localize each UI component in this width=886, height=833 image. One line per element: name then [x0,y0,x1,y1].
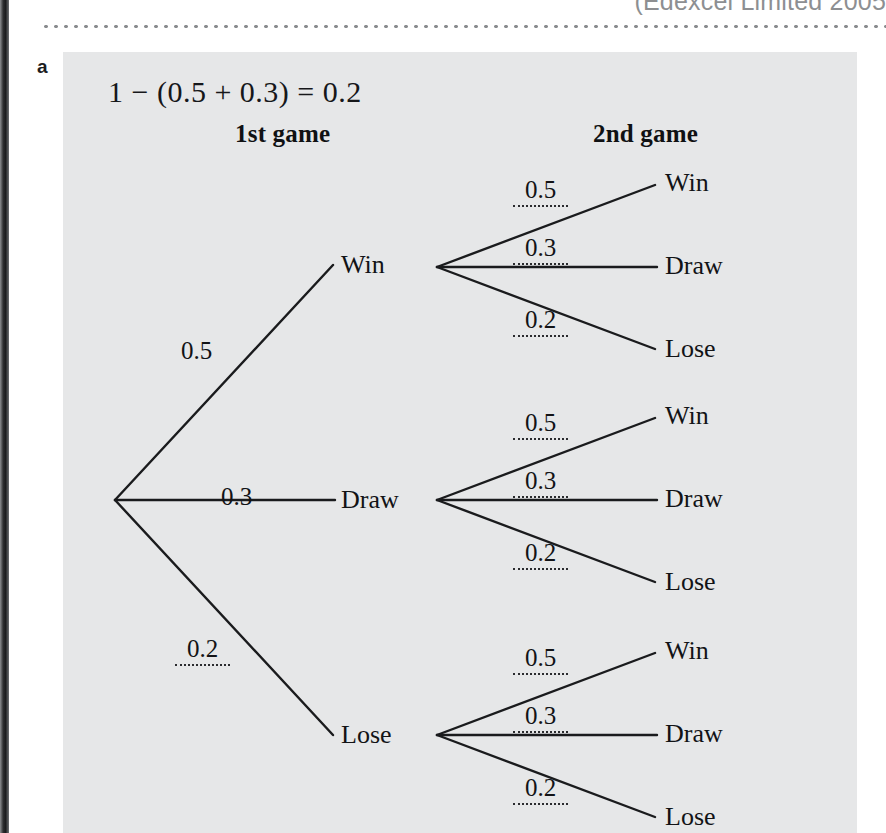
prob-g1-lose: 0.2 [513,307,568,337]
part-letter-a: a [37,56,48,78]
leaf-g2-draw: Draw [665,486,723,512]
leaf-g2-win: Win [665,403,709,429]
prob-level1-draw: 0.3 [221,484,252,512]
node-level1-draw: Draw [341,487,399,513]
prob-g3-lose: 0.2 [513,775,568,805]
leaf-g1-draw: Draw [665,253,723,279]
prob-level1-win: 0.5 [181,338,212,366]
leaf-g3-win: Win [665,638,709,664]
prob-g2-draw: 0.3 [513,468,568,498]
prob-g1-draw: 0.3 [513,235,568,265]
prob-g3-draw: 0.3 [513,703,568,733]
branch-line-level1-lose [115,500,333,735]
leaf-g3-lose: Lose [665,804,716,830]
prob-g1-win: 0.5 [513,177,568,207]
node-level1-win: Win [341,252,385,278]
prob-g2-win: 0.5 [513,410,568,440]
branch-line-level1-win [115,265,333,500]
prob-g3-win: 0.5 [513,645,568,675]
dotted-separator-rule [41,24,886,29]
leaf-g3-draw: Draw [665,721,723,747]
page-spine-shadow [0,0,9,833]
prob-g2-lose: 0.2 [513,540,568,570]
running-header: (Edexcel Limited 2005 [560,0,886,15]
answer-panel: 1 − (0.5 + 0.3) = 0.2 1st game 2nd game … [63,52,857,833]
probability-tree-lines [63,52,857,833]
prob-level1-lose: 0.2 [175,636,230,666]
leaf-g1-lose: Lose [665,336,716,362]
node-level1-lose: Lose [341,722,392,748]
leaf-g1-win: Win [665,170,709,196]
leaf-g2-lose: Lose [665,569,716,595]
